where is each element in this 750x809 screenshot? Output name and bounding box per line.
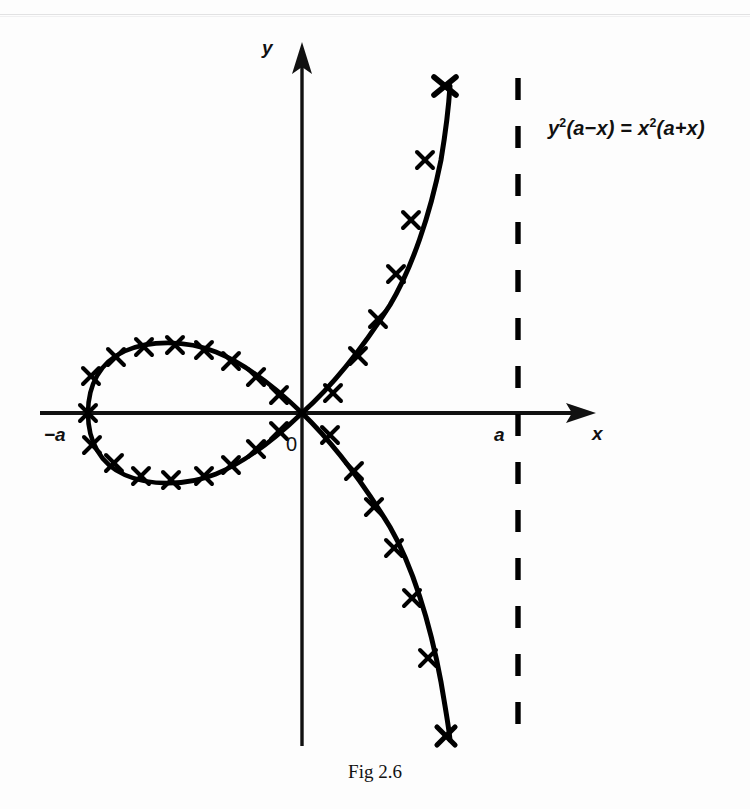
equation-lhs-base: y	[548, 117, 559, 139]
curve-upper-branch	[302, 86, 450, 413]
marker-cross	[388, 266, 404, 282]
positive-a-label: a	[494, 425, 505, 444]
marker-cross	[325, 385, 341, 401]
curve-lower-branch	[302, 413, 450, 740]
marker-cross	[163, 472, 179, 488]
equation-relation: =	[620, 117, 632, 139]
figure-page: y x 0 −a a y2(a−x) = x2(a+x) Fig 2.6	[0, 0, 750, 809]
equation-rhs-parenthetical: (a+x)	[657, 117, 705, 139]
x-axis-label: x	[592, 424, 603, 443]
marker-cross	[420, 650, 436, 666]
negative-a-label: −a	[44, 425, 66, 444]
y-axis-label: y	[262, 38, 273, 57]
origin-label: 0	[286, 434, 297, 454]
marker-cross	[417, 152, 433, 168]
figure-caption: Fig 2.6	[0, 762, 750, 781]
marker-cross	[403, 212, 419, 228]
axes-group	[40, 42, 596, 746]
marker-cross	[434, 77, 456, 95]
equation-rhs-exponent: 2	[649, 116, 656, 130]
equation-rhs-base: x	[638, 117, 649, 139]
equation-lhs-parenthetical: (a−x)	[566, 117, 614, 139]
equation-annotation: y2(a−x) = x2(a+x)	[548, 118, 705, 138]
marker-cross	[437, 727, 455, 745]
